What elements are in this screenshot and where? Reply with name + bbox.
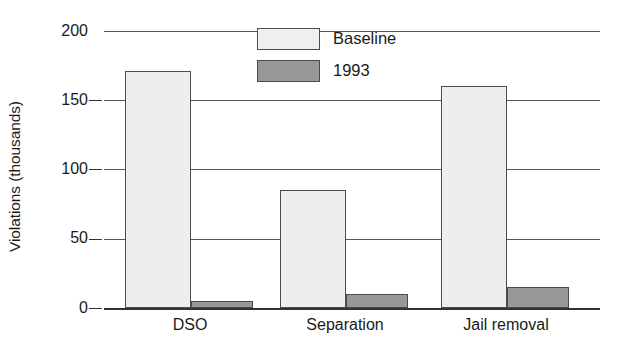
bar-1993-jail-removal	[507, 287, 569, 308]
1993-swatch-icon	[257, 60, 320, 82]
y-tickmark-0	[89, 308, 102, 309]
y-tick-label-0: 0	[42, 300, 88, 316]
bar-chart-figure: Violations (thousands) 200 150 100 50 0 …	[0, 0, 633, 353]
legend-entry-1993: 1993	[257, 58, 447, 83]
y-axis-tick-labels: 200 150 100 50 0	[36, 0, 88, 353]
bar-baseline-separation	[280, 190, 346, 308]
legend-entry-baseline: Baseline	[257, 26, 447, 51]
y-tickmark-50	[89, 239, 102, 240]
chart-legend: Baseline 1993	[257, 26, 447, 90]
x-axis-line	[104, 308, 600, 310]
y-tickmark-100	[89, 169, 102, 170]
y-axis-title: Violations (thousands)	[0, 0, 30, 353]
bar-baseline-dso	[125, 71, 191, 308]
bar-1993-separation	[346, 294, 408, 308]
y-tick-label-100: 100	[42, 161, 88, 177]
y-tickmark-150	[89, 100, 102, 101]
x-axis-label-jail-removal: Jail removal	[463, 316, 548, 334]
x-axis-label-dso: DSO	[173, 316, 208, 334]
bar-1993-dso	[191, 301, 253, 308]
y-tick-label-50: 50	[42, 230, 88, 246]
baseline-swatch-icon	[257, 28, 320, 50]
y-tick-label-150: 150	[42, 92, 88, 108]
y-tick-label-200: 200	[42, 23, 88, 39]
bar-baseline-jail-removal	[441, 86, 507, 308]
legend-label-1993: 1993	[333, 62, 370, 79]
x-axis-label-separation: Separation	[306, 316, 383, 334]
legend-label-baseline: Baseline	[333, 30, 396, 47]
